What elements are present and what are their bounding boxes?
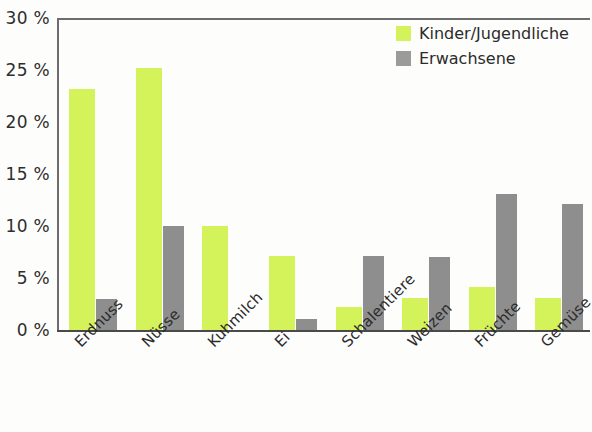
y-axis-labels: 30 %25 %20 %15 %10 %5 %0 % (0, 0, 56, 432)
bar-erwachsene (296, 319, 317, 330)
legend-swatch-icon-kinder-jugendliche (396, 26, 411, 41)
y-axis-tick-label: 30 % (6, 8, 50, 28)
legend-item-kinder-jugendliche: Kinder/Jugendliche (396, 24, 569, 43)
bar-group (257, 18, 324, 330)
bar-kinder-jugendliche (202, 226, 228, 330)
legend-item-erwachsene: Erwachsene (396, 49, 569, 68)
chart-legend: Kinder/Jugendliche Erwachsene (396, 24, 569, 68)
bar-chart: 30 %25 %20 %15 %10 %5 %0 % ErdnussNüsseK… (0, 0, 592, 432)
x-axis-tick-label: Ei (271, 328, 294, 351)
bar-kinder-jugendliche (69, 89, 95, 330)
legend-swatch-icon-erwachsene (396, 51, 411, 66)
legend-label-kinder-jugendliche: Kinder/Jugendliche (419, 24, 569, 43)
bar-group (124, 18, 191, 330)
y-axis-tick-label: 15 % (6, 164, 50, 184)
bar-group (190, 18, 257, 330)
bar-kinder-jugendliche (136, 68, 162, 330)
y-axis-tick-label: 5 % (17, 268, 50, 288)
legend-label-erwachsene: Erwachsene (419, 49, 516, 68)
y-axis-tick-label: 0 % (17, 320, 50, 340)
bar-group (57, 18, 124, 330)
bar-kinder-jugendliche (269, 256, 295, 330)
y-axis-tick-label: 25 % (6, 60, 50, 80)
bar-group (324, 18, 391, 330)
y-axis-tick-label: 20 % (6, 112, 50, 132)
x-axis-labels: ErdnussNüsseKuhmilchEiSchalentiereWeizen… (57, 332, 590, 432)
y-axis-tick-label: 10 % (6, 216, 50, 236)
